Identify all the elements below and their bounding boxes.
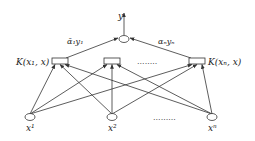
svm-network-diagram: y ᾱ₁y₁ αₙyₙ K(x₁, x) K(xₙ, x) ........ .… — [0, 0, 255, 141]
kernel-label-n: K(xₙ, x) — [207, 57, 242, 67]
nodes — [25, 36, 217, 121]
edge-input-2-kernel-3 — [112, 65, 197, 115]
input-node-3 — [207, 114, 217, 121]
input-label-n: xⁿ — [208, 123, 217, 133]
kernel-node-2 — [104, 58, 120, 64]
edge-input-1-kernel-2 — [30, 65, 107, 115]
edge-input-3-kernel-3 — [202, 65, 212, 115]
diagram-svg: y ᾱ₁y₁ αₙyₙ K(x₁, x) K(xₙ, x) ........ .… — [0, 0, 255, 141]
input-label-1: x¹ — [26, 123, 35, 133]
edge-input-1-kernel-3 — [30, 65, 192, 115]
edge-input-3-kernel-1 — [65, 65, 212, 115]
input-node-1 — [25, 114, 35, 121]
output-node — [119, 36, 129, 43]
output-label: y — [117, 11, 124, 21]
edge-input-1-kernel-1 — [30, 65, 55, 115]
input-ellipsis: ......... — [153, 113, 176, 122]
kernel-node-1 — [52, 58, 68, 64]
kernel-label-1: K(x₁, x) — [15, 57, 50, 67]
weight-label-left: ᾱ₁y₁ — [67, 37, 83, 46]
kernel-ellipsis: ........ — [137, 57, 157, 66]
weight-label-right: αₙyₙ — [158, 37, 174, 46]
edge-input-3-kernel-2 — [117, 65, 212, 115]
input-label-2: x² — [108, 123, 117, 133]
input-node-2 — [107, 114, 117, 121]
kernel-node-3 — [189, 58, 205, 64]
